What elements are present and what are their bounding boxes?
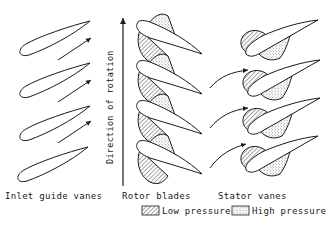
- rotor-blades: [137, 14, 202, 184]
- label-direction-of-rotation: Direction of rotation: [105, 50, 115, 164]
- legend-low-label: Low pressure: [162, 206, 231, 216]
- legend-high-label: High pressure: [252, 206, 326, 216]
- legend-high-swatch: [232, 206, 249, 215]
- stator-vanes: [210, 20, 320, 176]
- label-inlet-guide-vanes: Inlet guide vanes: [5, 191, 102, 201]
- legend-low-swatch: [142, 206, 159, 215]
- label-rotor-blades: Rotor blades: [122, 191, 191, 201]
- label-stator-vanes: Stator vanes: [218, 191, 287, 201]
- inlet-guide-vanes: [18, 21, 91, 182]
